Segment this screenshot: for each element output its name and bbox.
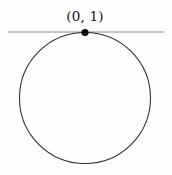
tangency-point-dot	[81, 29, 88, 36]
tangency-point-label: (0, 1)	[66, 10, 104, 24]
geometry-figure: (0, 1)	[0, 0, 172, 175]
diagram-canvas	[0, 0, 172, 175]
figure-background	[0, 0, 172, 175]
